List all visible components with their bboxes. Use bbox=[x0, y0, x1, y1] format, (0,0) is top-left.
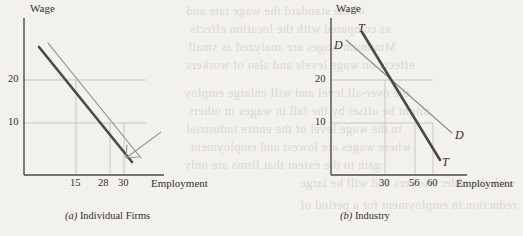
panel-a-y-tick-20: 20 bbox=[8, 73, 19, 84]
panel-b-caption-label: Industry bbox=[355, 210, 390, 221]
panel-a-x-tick-15: 15 bbox=[70, 177, 81, 188]
panel-a-y-tick-10: 10 bbox=[8, 116, 19, 127]
curve-label-d-top: D bbox=[334, 38, 343, 53]
panel-b-caption: (b) Industry bbox=[340, 210, 390, 221]
panel-a-caption-label: Individual Firms bbox=[80, 210, 150, 221]
curve-label-t-end: T bbox=[442, 155, 449, 170]
panel-b-x-tick-30: 30 bbox=[379, 177, 390, 188]
curve-original-demand bbox=[48, 43, 141, 158]
figure-page: of the standard the wage rate and as com… bbox=[0, 0, 523, 236]
panel-a-y-axis-label: Wage bbox=[30, 2, 55, 14]
panel-b-caption-index: (b) bbox=[340, 210, 352, 221]
curve-label-t-top: T bbox=[358, 21, 365, 36]
panel-a-plot bbox=[0, 0, 262, 236]
panel-a-x-tick-28: 28 bbox=[98, 177, 109, 188]
panel-b-plot bbox=[262, 0, 523, 236]
panel-b-x-tick-56: 56 bbox=[409, 177, 420, 188]
panel-a-caption: (a) Individual Firms bbox=[65, 210, 150, 221]
panel-a-caption-index: (a) bbox=[65, 210, 77, 221]
curve-t bbox=[362, 32, 440, 160]
panel-individual-firms: Wage Employment 20 10 15 28 30 (a) Indiv… bbox=[0, 0, 262, 236]
panel-b-y-tick-10: 10 bbox=[315, 116, 326, 127]
curve-shifted-demand bbox=[39, 47, 132, 162]
panel-b-y-axis-label: Wage bbox=[336, 2, 361, 14]
panel-a-x-tick-30: 30 bbox=[118, 177, 129, 188]
panel-industry: Wage Employment 20 10 30 56 60 T D D T (… bbox=[262, 0, 523, 236]
shift-arrow-shaft bbox=[126, 132, 161, 158]
panel-a-x-axis-label: Employment bbox=[151, 177, 208, 189]
panel-b-x-axis-label: Employment bbox=[456, 177, 513, 189]
curve-d bbox=[346, 40, 452, 133]
curve-label-d-end: D bbox=[455, 128, 464, 143]
panel-b-x-tick-60: 60 bbox=[427, 177, 438, 188]
panel-b-y-tick-20: 20 bbox=[315, 73, 326, 84]
